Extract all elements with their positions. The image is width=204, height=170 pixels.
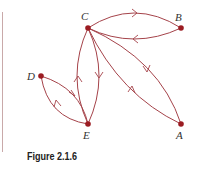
- edge-e-to-d: [41, 76, 88, 124]
- edge-c-to-a: [88, 28, 181, 124]
- directed-graph: [0, 0, 204, 170]
- edge-d-to-e: [41, 76, 88, 124]
- arrow-c-to-a-icon: [143, 65, 150, 72]
- edge-e-to-c: [77, 28, 88, 124]
- node-d: [38, 73, 44, 79]
- figure-caption: Figure 2.1.6: [27, 150, 77, 162]
- node-label-c: C: [81, 10, 88, 22]
- arrow-d-to-e-icon: [69, 90, 75, 96]
- node-label-d: D: [27, 70, 35, 82]
- edge-a-to-c: [88, 28, 181, 124]
- node-label-e: E: [83, 129, 90, 141]
- arrow-e-to-c-icon: [74, 76, 82, 82]
- node-a: [178, 121, 184, 127]
- arrow-e-to-d-icon: [54, 100, 61, 107]
- node-e: [85, 121, 91, 127]
- node-label-a: A: [176, 129, 183, 141]
- node-label-b: B: [175, 11, 182, 23]
- node-c: [85, 25, 91, 31]
- node-b: [178, 25, 184, 31]
